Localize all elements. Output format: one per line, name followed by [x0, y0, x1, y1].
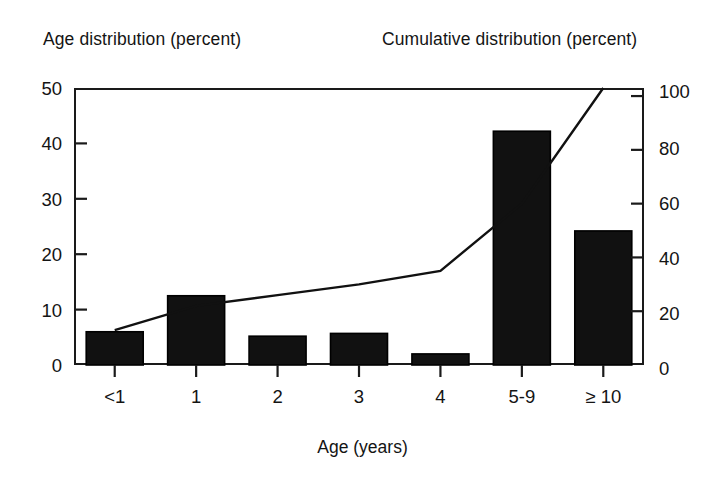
x-tick-label-0: <1: [70, 386, 160, 408]
y-tick-label-50: 50: [10, 78, 62, 100]
y2-tick-label-20: 20: [659, 303, 719, 325]
y2-tick-label-100: 100: [659, 81, 719, 103]
x-tick-label-3: 3: [314, 386, 404, 408]
y2-tick-label-60: 60: [659, 193, 719, 215]
y2-tick-label-80: 80: [659, 138, 719, 160]
x-tick-label-2: 2: [233, 386, 323, 408]
axis-ticks: [0, 0, 725, 488]
x-tick-label-1: 1: [151, 386, 241, 408]
y2-tick-label-40: 40: [659, 248, 719, 270]
x-tick-label-5: 5-9: [477, 386, 567, 408]
y-tick-label-30: 30: [10, 189, 62, 211]
y-tick-label-20: 20: [10, 244, 62, 266]
y-tick-label-10: 10: [10, 300, 62, 322]
x-tick-label-6: ≥ 10: [558, 386, 648, 408]
y-tick-label-40: 40: [10, 133, 62, 155]
y-tick-label-0: 0: [10, 355, 62, 377]
chart-figure: Age distribution (percent) Cumulative di…: [0, 0, 725, 488]
y2-tick-label-0: 0: [659, 358, 719, 380]
x-axis-title: Age (years): [0, 437, 725, 458]
x-tick-label-4: 4: [395, 386, 485, 408]
